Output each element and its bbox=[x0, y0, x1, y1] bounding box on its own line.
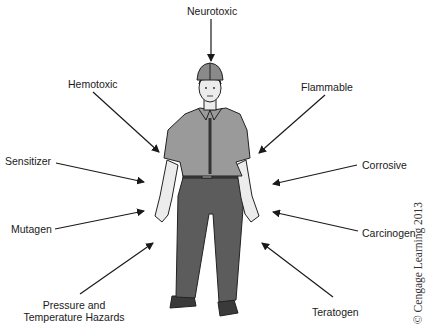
copyright-notice: © Cengage Learning 2013 bbox=[412, 202, 424, 324]
arrow-mutagen bbox=[55, 211, 144, 229]
right-shoe bbox=[218, 300, 238, 316]
arrow-carcinogen bbox=[273, 212, 358, 231]
label-pressure-temperature: Pressure and Temperature Hazards bbox=[22, 299, 126, 323]
left-eye bbox=[205, 87, 207, 89]
arrow-pressure-temperature bbox=[80, 243, 153, 294]
label-mutagen: Mutagen bbox=[11, 223, 52, 235]
label-neurotoxic: Neurotoxic bbox=[187, 5, 237, 17]
label-teratogen: Teratogen bbox=[312, 306, 359, 318]
arrow-sensitizer bbox=[56, 163, 144, 182]
arrow-flammable bbox=[259, 95, 325, 153]
right-eye bbox=[213, 87, 215, 89]
arrow-corrosive bbox=[273, 165, 357, 184]
pants bbox=[176, 174, 244, 302]
label-hemotoxic: Hemotoxic bbox=[68, 78, 118, 90]
label-pressure-line1: Pressure and bbox=[22, 299, 126, 311]
label-carcinogen: Carcinogen bbox=[362, 227, 416, 239]
arrow-teratogen bbox=[262, 243, 333, 297]
label-flammable: Flammable bbox=[301, 81, 353, 93]
left-arm bbox=[155, 160, 178, 222]
label-corrosive: Corrosive bbox=[362, 159, 407, 171]
arrow-hemotoxic bbox=[93, 92, 159, 152]
label-pressure-line2: Temperature Hazards bbox=[22, 311, 126, 323]
worker-figure bbox=[155, 63, 259, 316]
label-sensitizer: Sensitizer bbox=[5, 155, 51, 167]
